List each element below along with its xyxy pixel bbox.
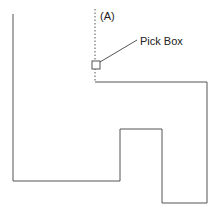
pick-box-label: Pick Box <box>140 36 183 47</box>
pick-box-icon <box>92 61 100 69</box>
diagram-canvas <box>0 0 215 215</box>
label-a: (A) <box>100 11 115 22</box>
pick-box-leader-line <box>100 40 137 62</box>
